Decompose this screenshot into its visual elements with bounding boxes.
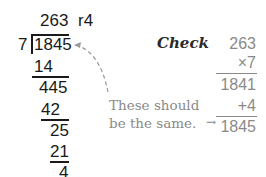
check-rule-1 [216, 73, 257, 74]
check-product: 1841 [214, 77, 256, 93]
check-addend: +4 [214, 98, 256, 114]
check-multiplicand: 263 [214, 36, 256, 52]
check-multiplier: ×7 [214, 55, 256, 71]
annotation-line-2: be the same. [109, 117, 196, 131]
check-heading: Check [157, 36, 209, 51]
check-total: 1845 [214, 119, 256, 135]
annotation-line-1: These should [109, 99, 199, 113]
